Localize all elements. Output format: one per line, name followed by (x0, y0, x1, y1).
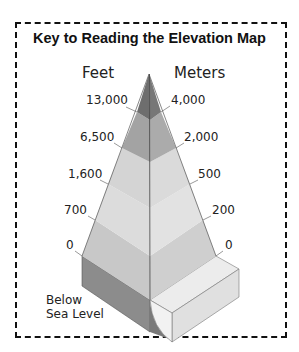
below-sea-level-label: Below Sea Level (46, 293, 104, 321)
feet-label-1600: 1,600 (68, 167, 102, 181)
meters-label-500: 500 (198, 167, 221, 181)
feet-label-700: 700 (64, 203, 87, 217)
feet-label-13000: 13,000 (86, 93, 128, 107)
meters-label-2000: 2,000 (184, 130, 218, 144)
below-sea-level-line2: Sea Level (46, 307, 104, 321)
below-sea-level-line1: Below (46, 293, 104, 307)
feet-label-6500: 6,500 (80, 130, 114, 144)
elevation-pyramid (0, 0, 299, 352)
feet-label-0: 0 (66, 238, 74, 252)
meters-label-4000: 4,000 (171, 93, 205, 107)
meters-label-200: 200 (212, 203, 235, 217)
meters-label-0: 0 (225, 238, 233, 252)
